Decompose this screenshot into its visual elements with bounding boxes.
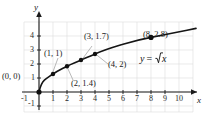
x-tick-8: 8 bbox=[149, 95, 153, 103]
y-axis bbox=[36, 11, 42, 110]
x-tick-minus-1: -1 bbox=[21, 95, 28, 103]
x-axis-label: x bbox=[197, 96, 201, 105]
point-4-2 bbox=[93, 52, 97, 56]
equation-label: y=x bbox=[140, 52, 167, 64]
annotation-point-3-17: (3, 1.7) bbox=[84, 32, 109, 41]
x-axis-arrow bbox=[191, 89, 197, 95]
x-tick-4: 4 bbox=[93, 95, 97, 103]
equation-lhs: y bbox=[140, 53, 144, 64]
leader-p4 bbox=[97, 55, 108, 64]
x-tick-9: 9 bbox=[163, 95, 167, 103]
x-tick-7: 7 bbox=[135, 95, 139, 103]
annotation-point-4-2: (4, 2) bbox=[108, 60, 126, 69]
x-tick-2: 2 bbox=[65, 95, 69, 103]
x-tick-5: 5 bbox=[107, 95, 111, 103]
point-1-1 bbox=[51, 72, 55, 76]
equation-equals: = bbox=[146, 53, 152, 64]
graph-figure: y x 4 3 2 1 -1 -1 1 2 3 4 5 6 7 8 9 10 (… bbox=[0, 0, 213, 126]
y-tick-2: 2 bbox=[30, 60, 34, 68]
y-tick-4: 4 bbox=[30, 32, 34, 40]
x-tick-10: 10 bbox=[175, 95, 183, 103]
point-3-17 bbox=[79, 58, 83, 62]
x-tick-6: 6 bbox=[121, 95, 125, 103]
annotation-point-2-14: (2, 1.4) bbox=[71, 79, 96, 88]
x-tick-1: 1 bbox=[51, 95, 55, 103]
y-axis-label: y bbox=[34, 3, 38, 12]
point-0-0 bbox=[36, 89, 41, 94]
square-root-symbol: x bbox=[154, 52, 166, 64]
x-tick-3: 3 bbox=[79, 95, 83, 103]
equation-radicand: x bbox=[162, 53, 166, 64]
annotation-point-1-1: (1, 1) bbox=[44, 49, 62, 58]
annotation-point-0-0: (0, 0) bbox=[2, 72, 20, 81]
point-2-14 bbox=[65, 64, 69, 68]
y-tick-3: 3 bbox=[30, 46, 34, 54]
annotation-point-8-28: (8, 2.8) bbox=[143, 30, 168, 39]
y-tick-1: 1 bbox=[31, 74, 35, 82]
y-tick-minus-1: -1 bbox=[28, 100, 35, 108]
